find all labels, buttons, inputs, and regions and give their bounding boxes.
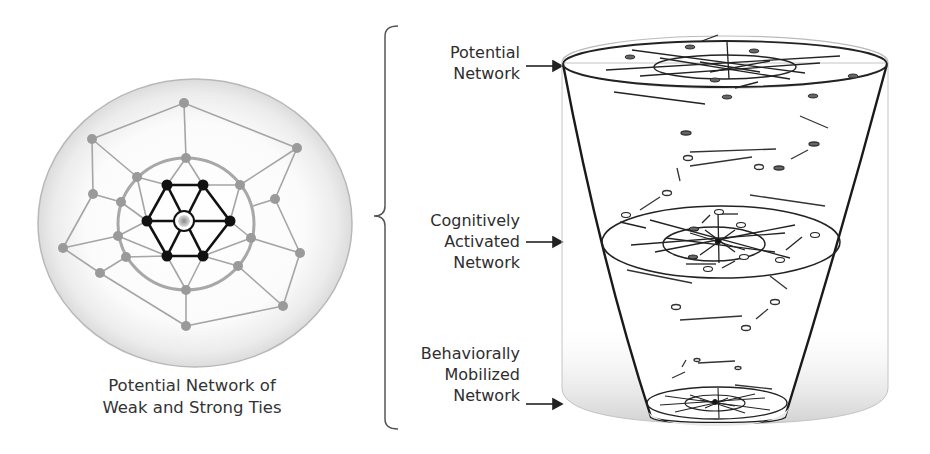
label-line: Behaviorally	[390, 343, 520, 364]
potential-network-diagram	[38, 79, 352, 367]
label-behaviorally-mobilized-network: Behaviorally Mobilized Network	[390, 343, 520, 406]
caption-line-1: Potential Network of	[72, 375, 312, 397]
network-funnel-diagram	[562, 35, 888, 426]
label-line: Activated	[400, 231, 520, 252]
label-cognitively-activated-network: Cognitively Activated Network	[400, 210, 520, 273]
ego-node	[174, 211, 194, 231]
label-line: Cognitively	[400, 210, 520, 231]
label-arrows	[526, 61, 562, 409]
label-line: Mobilized	[390, 364, 520, 385]
label-line: Potential	[420, 42, 520, 63]
caption-line-2: Weak and Strong Ties	[72, 397, 312, 419]
left-diagram-caption: Potential Network of Weak and Strong Tie…	[72, 375, 312, 419]
label-line: Network	[390, 385, 520, 406]
label-line: Network	[400, 252, 520, 273]
label-line: Network	[420, 63, 520, 84]
label-potential-network: Potential Network	[420, 42, 520, 84]
